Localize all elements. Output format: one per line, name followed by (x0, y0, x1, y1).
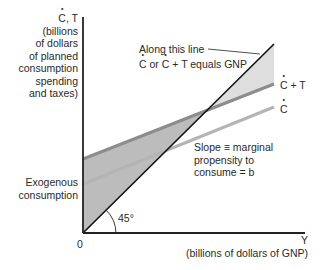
y-axis-caption-4: consumption (18, 62, 78, 75)
equilibrium-line-label: Along this line C or C + T equals GNP (139, 43, 247, 70)
exogenous-consumption-label: Exogenous consumption (18, 176, 78, 201)
slope-label: Slope ≡ marginal propensity to consume =… (194, 141, 273, 179)
angle-label: 45° (118, 212, 134, 225)
c-dot-symbol: C (139, 58, 147, 71)
angle-arc (106, 210, 116, 233)
c-dot-symbol: C (280, 103, 288, 116)
c-dot-symbol: C (280, 79, 288, 92)
y-axis-symbol: C, T (18, 12, 78, 25)
c-dot-symbol: C (162, 58, 170, 71)
c-dot-symbol: C (58, 12, 66, 25)
forty-five-degree-line (83, 44, 274, 233)
y-axis-caption-5: spending (18, 75, 78, 88)
y-axis-label: C, T (billions of dollars of planned con… (18, 12, 78, 100)
consumption-label: C (280, 103, 288, 116)
origin-label: 0 (77, 238, 83, 251)
x-axis-symbol: Y (186, 234, 308, 247)
y-axis-caption-2: of dollars (18, 37, 78, 50)
consumption-plus-tax-label: C + T (280, 79, 306, 92)
y-axis-caption-1: (billions (18, 25, 78, 38)
y-axis-caption-6: and taxes) (18, 87, 78, 100)
x-axis-label: Y (billions of dollars of GNP) (186, 234, 308, 259)
x-axis-caption: (billions of dollars of GNP) (186, 247, 308, 260)
y-axis-caption-3: of planned (18, 50, 78, 63)
